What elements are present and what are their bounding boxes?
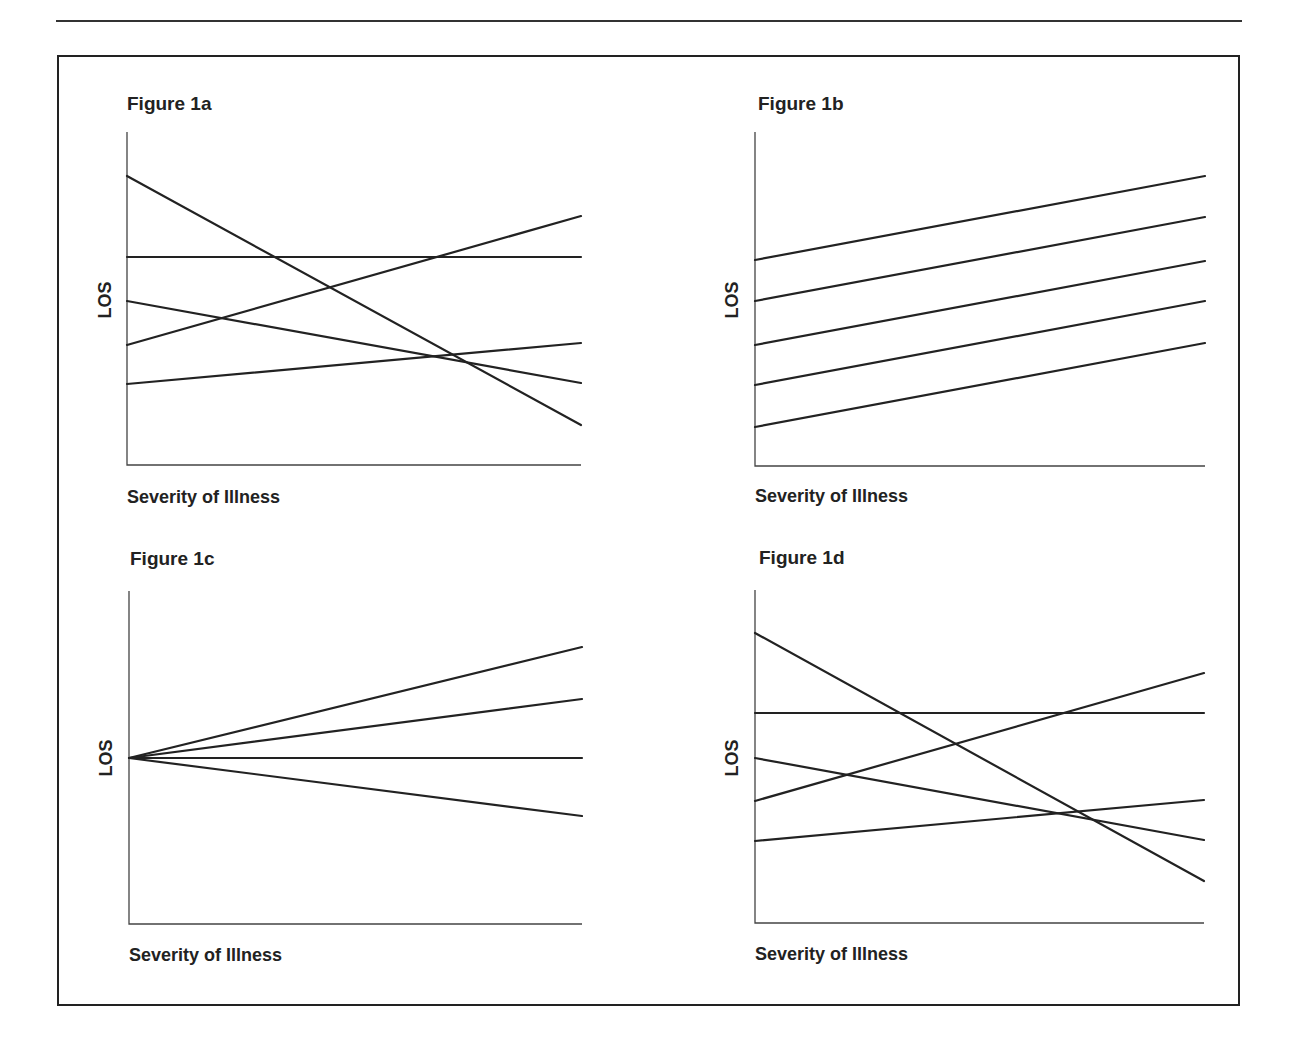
series-lines: [755, 176, 1205, 427]
y-axis-label: LOS: [722, 281, 742, 318]
panel-title: Figure 1b: [758, 93, 844, 114]
x-axis-label: Severity of Illness: [755, 486, 908, 506]
series-line: [755, 261, 1205, 345]
panel-1b: Figure 1b LOS Severity of Illness: [722, 93, 1205, 506]
x-axis-label: Severity of Illness: [129, 945, 282, 965]
x-axis-label: Severity of Illness: [755, 944, 908, 964]
series-line: [127, 176, 581, 425]
series-line: [755, 176, 1205, 260]
series-line: [755, 758, 1204, 840]
x-axis-label: Severity of Illness: [127, 487, 280, 507]
panel-title: Figure 1d: [759, 547, 845, 568]
axes: [127, 132, 581, 465]
series-line: [755, 800, 1204, 841]
panel-1a: Figure 1a LOS Severity of Illness: [95, 93, 581, 507]
y-axis-label: LOS: [722, 739, 742, 776]
series-line: [755, 673, 1204, 801]
series-lines: [755, 633, 1204, 881]
series-line: [755, 633, 1204, 881]
panel-title: Figure 1c: [130, 548, 215, 569]
axis-lines: [755, 132, 1205, 466]
axis-lines: [127, 132, 581, 465]
y-axis-label: LOS: [95, 281, 115, 318]
series-line: [127, 301, 581, 383]
series-lines: [127, 176, 581, 425]
series-line: [755, 301, 1205, 385]
y-axis-label: LOS: [96, 739, 116, 776]
figure-panels: Figure 1a LOS Severity of Illness Figure…: [0, 0, 1294, 1052]
series-line: [129, 647, 582, 758]
series-line: [755, 217, 1205, 301]
panel-1c: Figure 1c LOS Severity of Illness: [96, 548, 582, 965]
series-line: [127, 343, 581, 384]
series-line: [127, 216, 581, 345]
series-line: [129, 758, 582, 816]
series-line: [129, 699, 582, 758]
series-lines: [129, 647, 582, 816]
panel-1d: Figure 1d LOS Severity of Illness: [722, 547, 1204, 964]
panel-title: Figure 1a: [127, 93, 212, 114]
series-line: [755, 343, 1205, 427]
axes: [755, 132, 1205, 466]
